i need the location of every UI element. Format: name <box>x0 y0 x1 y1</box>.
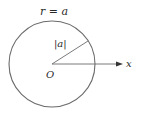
radius-label: |a| <box>54 38 67 50</box>
circle-label: r = a <box>40 5 68 18</box>
x-axis-label: x <box>126 58 132 69</box>
circle-diagram: r = a |a| O x <box>0 0 142 117</box>
origin-label: O <box>46 69 54 80</box>
x-axis-arrowhead-icon <box>116 62 123 67</box>
